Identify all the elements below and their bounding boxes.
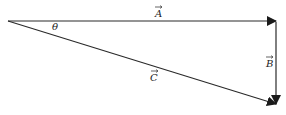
angle-theta-label: θ	[52, 21, 58, 32]
svg-text:B: B	[265, 58, 273, 69]
svg-text:A: A	[154, 8, 162, 19]
svg-text:C: C	[150, 72, 158, 83]
vector-c-label: C	[150, 70, 158, 84]
vector-a-label: A	[154, 6, 162, 20]
vector-diagram: θ A B C	[0, 0, 286, 115]
vector-b-label: B	[265, 56, 273, 70]
vector-c	[8, 21, 276, 104]
